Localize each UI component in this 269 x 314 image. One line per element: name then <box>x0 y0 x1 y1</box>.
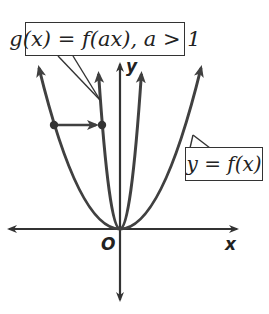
x-axis-label: x <box>225 234 236 254</box>
f-function-label: y = f(x) <box>186 152 261 176</box>
f-function-callout: y = f(x) <box>185 147 263 181</box>
mapping-arrow <box>50 121 106 129</box>
transformation-diagram: g(x) = f(ax), a > 1 y = f(x) y x O <box>0 0 269 314</box>
g-callout-pointer <box>58 56 100 101</box>
y-axis-label: y <box>126 56 137 76</box>
g-function-callout: g(x) = f(ax), a > 1 <box>25 22 185 56</box>
point-on-g <box>98 121 106 129</box>
g-function-label: g(x) = f(ax), a > 1 <box>9 27 200 51</box>
origin-label: O <box>101 234 115 254</box>
point-on-f <box>50 121 58 129</box>
